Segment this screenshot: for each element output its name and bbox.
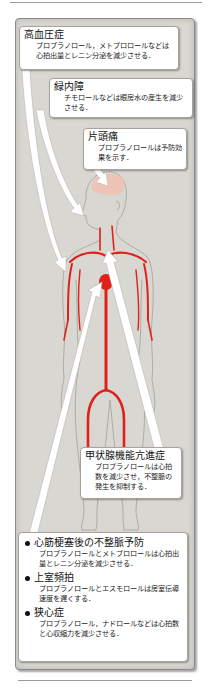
callout-title: 高血圧症 xyxy=(24,29,174,41)
callout-title: 甲状腺機能亢進症 xyxy=(85,450,177,462)
callout-text: プロプラノロール，メトプロロールなどは心拍出量とレニン分泌を減少させる． xyxy=(24,41,174,61)
callout-cardiac-list: 心筋梗塞後の不整脈予防 プロプラノロールとメトプロロールは心拍出量とレニン分泌を… xyxy=(18,532,188,662)
list-item-text: プロプラノロールとメトプロロールは心拍出量とレニン分泌を減少させる． xyxy=(25,549,181,569)
list-item: 心筋梗塞後の不整脈予防 プロプラノロールとメトプロロールは心拍出量とレニン分泌を… xyxy=(25,537,181,569)
list-item-title: 上室頻拍 xyxy=(34,572,74,584)
callout-text: プロプラノロールは心拍数を減少させ，不整脈の発生を抑制する． xyxy=(85,462,177,492)
callout-hyperthyroidism: 甲状腺機能亢進症 プロプラノロールは心拍数を減少させ，不整脈の発生を抑制する． xyxy=(80,447,182,499)
list-item-text: プロプラノロール，ナドロールなどは心拍数と心収縮力を減少させる． xyxy=(25,619,181,639)
list-item: 上室頻拍 プロプラノロールとエスモロールは房室伝導速度を遅くする． xyxy=(25,572,181,604)
callout-title: 片頭痛 xyxy=(88,131,182,143)
bullet-icon xyxy=(25,541,30,546)
callout-text: チモロールなどは眼房水の産生を減少させる． xyxy=(54,93,188,113)
callout-text: プロプラノロールは予防効果を示す． xyxy=(88,143,182,163)
callout-title: 緑内障 xyxy=(54,81,188,93)
brain-icon xyxy=(92,174,125,195)
callout-hypertension: 高血圧症 プロプラノロール，メトプロロールなどは心拍出量とレニン分泌を減少させる… xyxy=(19,26,179,70)
callout-glaucoma: 緑内障 チモロールなどは眼房水の産生を減少させる． xyxy=(49,78,193,118)
list-item-title: 心筋梗塞後の不整脈予防 xyxy=(34,537,144,549)
bottom-rule xyxy=(18,680,192,681)
list-item-text: プロプラノロールとエスモロールは房室伝導速度を遅くする． xyxy=(25,584,181,604)
bullet-icon xyxy=(25,576,30,581)
list-item: 狭心症 プロプラノロール，ナドロールなどは心拍数と心収縮力を減少させる． xyxy=(25,607,181,639)
list-item-title: 狭心症 xyxy=(34,607,64,619)
callout-migraine: 片頭痛 プロプラノロールは予防効果を示す． xyxy=(83,128,187,170)
bullet-icon xyxy=(25,611,30,616)
arrow-cardiac-icon xyxy=(28,282,102,540)
